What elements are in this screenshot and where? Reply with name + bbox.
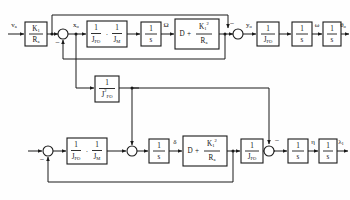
signal-label-omega: ω xyxy=(315,21,320,29)
sum-junction-top-right-minus: − xyxy=(230,19,235,28)
signal-label-eta: η xyxy=(311,138,315,146)
block-bottom-product-operator: · xyxy=(86,148,88,156)
sum-junction-bottom-left xyxy=(43,146,53,156)
block-top-damping-operator: + xyxy=(187,30,191,38)
block-bottom-inv-jfo2-num: 1 xyxy=(250,142,254,150)
block-bottom-inv-jfo-num: 1 xyxy=(74,141,78,149)
sum-junction-bottom-middle xyxy=(127,146,137,156)
sum-junction-top-right xyxy=(233,29,243,39)
block-top-damping-lead: D xyxy=(179,30,184,38)
block-bottom-integrator-2-num: 1 xyxy=(296,142,300,150)
signal-label-delta: δ xyxy=(173,138,177,146)
sum-junction-bottom-right-minus: − xyxy=(275,136,280,145)
block-top-inv-jfo2-num: 1 xyxy=(266,25,270,33)
block-cross-num: 1 xyxy=(105,79,109,87)
block-top-integrator-3-den: s xyxy=(331,36,334,44)
block-top-inv-jfo-num: 1 xyxy=(94,24,98,32)
block-top-integrator-1-den: s xyxy=(150,36,153,44)
signal-label-theta-o: θo xyxy=(340,21,346,29)
sum-junction-bottom-right xyxy=(264,146,274,156)
block-bottom-inv-jm-num: 1 xyxy=(95,141,99,149)
block-bottom-integrator-3-den: s xyxy=(327,153,330,161)
signal-label-omega-cap: Ω xyxy=(163,21,168,29)
block-bottom-damping-operator: + xyxy=(195,147,199,155)
block-top-product-operator: · xyxy=(106,31,108,39)
block-top-integrator-1-num: 1 xyxy=(149,25,153,33)
block-top-integrator-2-den: s xyxy=(301,36,304,44)
block-bottom-damping-lead: D xyxy=(187,147,192,155)
block-bottom-integrator-3-num: 1 xyxy=(326,142,330,150)
signal-label-va: va xyxy=(11,21,17,29)
block-bottom-integrator-1-num: 1 xyxy=(157,142,161,150)
sum-junction-top-left-minus: − xyxy=(55,38,60,47)
block-top-integrator-2-num: 1 xyxy=(300,25,304,33)
signal-label-lambda: λ1 xyxy=(338,138,344,146)
block-bottom-integrator-1-den: s xyxy=(158,153,161,161)
block-top-inv-jm-num: 1 xyxy=(115,24,119,32)
block-diagram: va K1 Ra − xo 1 JFO · 1 JM 1 s Ω D + K12… xyxy=(0,0,350,200)
sum-junction-bottom-left-minus: − xyxy=(40,155,45,164)
signal-label-xo: xo xyxy=(73,21,80,29)
block-bottom-integrator-2-den: s xyxy=(297,153,300,161)
signal-label-yo: yo xyxy=(246,21,253,29)
block-top-integrator-3-num: 1 xyxy=(330,25,334,33)
